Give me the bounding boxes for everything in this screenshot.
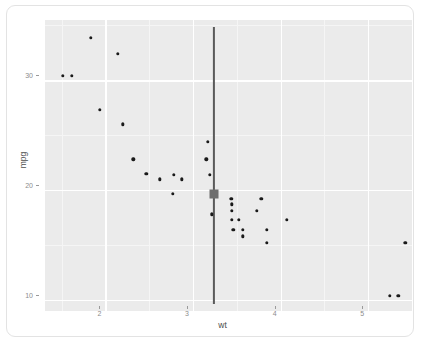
y-axis-tick-mark bbox=[36, 185, 39, 186]
data-point[interactable] bbox=[158, 178, 161, 181]
y-axis-tick-label: 30 bbox=[13, 72, 33, 79]
data-point[interactable] bbox=[144, 172, 147, 175]
grid-minor-vertical bbox=[237, 20, 238, 311]
grid-minor-horizontal bbox=[45, 135, 412, 136]
data-point[interactable] bbox=[397, 294, 400, 297]
grid-minor-vertical bbox=[324, 20, 325, 311]
x-axis-title: wt bbox=[203, 320, 243, 330]
data-point[interactable] bbox=[265, 241, 268, 244]
data-point[interactable] bbox=[230, 218, 233, 221]
grid-major-horizontal bbox=[45, 300, 412, 301]
data-point[interactable] bbox=[171, 192, 174, 195]
x-axis-tick-mark bbox=[275, 306, 276, 309]
data-point[interactable] bbox=[208, 173, 211, 176]
grid-minor-vertical bbox=[62, 20, 63, 311]
data-point[interactable] bbox=[132, 158, 135, 161]
grid-major-horizontal bbox=[45, 190, 412, 191]
data-point[interactable] bbox=[265, 228, 268, 231]
data-point[interactable] bbox=[285, 218, 288, 221]
x-axis-tick-mark bbox=[362, 306, 363, 309]
data-point[interactable] bbox=[98, 108, 101, 111]
x-axis-tick-label: 2 bbox=[97, 310, 101, 317]
data-point[interactable] bbox=[206, 140, 209, 143]
x-axis-tick-label: 5 bbox=[360, 310, 364, 317]
y-axis-title: mpg bbox=[18, 138, 28, 182]
x-axis-tick-label: 3 bbox=[185, 310, 189, 317]
y-axis-tick-mark bbox=[36, 75, 39, 76]
grid-minor-horizontal bbox=[45, 245, 412, 246]
x-axis-tick-mark bbox=[99, 306, 100, 309]
y-axis-tick-label: 20 bbox=[13, 182, 33, 189]
grid-minor-horizontal bbox=[45, 25, 412, 26]
data-point[interactable] bbox=[232, 228, 235, 231]
grid-major-vertical bbox=[368, 20, 369, 311]
grid-major-horizontal bbox=[45, 80, 412, 81]
data-point[interactable] bbox=[172, 173, 175, 176]
data-point[interactable] bbox=[230, 203, 233, 206]
data-point[interactable] bbox=[241, 228, 244, 231]
data-point[interactable] bbox=[116, 52, 119, 55]
data-point[interactable] bbox=[255, 209, 258, 212]
data-point[interactable] bbox=[204, 158, 207, 161]
x-axis-tick-mark bbox=[187, 306, 188, 309]
grid-major-vertical bbox=[193, 20, 194, 311]
data-point[interactable] bbox=[404, 241, 407, 244]
data-point[interactable] bbox=[260, 197, 263, 200]
data-point[interactable] bbox=[121, 123, 124, 126]
data-point[interactable] bbox=[180, 178, 183, 181]
grid-major-vertical bbox=[281, 20, 282, 311]
x-axis-tick-label: 4 bbox=[273, 310, 277, 317]
data-point[interactable] bbox=[230, 209, 233, 212]
data-point[interactable] bbox=[237, 218, 240, 221]
highlighted-data-point[interactable] bbox=[210, 189, 219, 198]
vertical-reference-line[interactable] bbox=[213, 27, 215, 305]
y-axis-tick-label: 10 bbox=[13, 292, 33, 299]
data-point[interactable] bbox=[229, 197, 232, 200]
data-point[interactable] bbox=[388, 294, 391, 297]
data-point[interactable] bbox=[241, 235, 244, 238]
data-point[interactable] bbox=[70, 74, 73, 77]
plot-panel bbox=[45, 20, 412, 311]
data-point[interactable] bbox=[61, 74, 64, 77]
screenshot-root: 1020302345 mpg wt bbox=[0, 0, 422, 345]
grid-major-vertical bbox=[105, 20, 106, 311]
y-axis-tick-mark bbox=[36, 295, 39, 296]
grid-minor-vertical bbox=[149, 20, 150, 311]
data-point[interactable] bbox=[89, 36, 92, 39]
plot-card: 1020302345 mpg wt bbox=[6, 5, 414, 337]
